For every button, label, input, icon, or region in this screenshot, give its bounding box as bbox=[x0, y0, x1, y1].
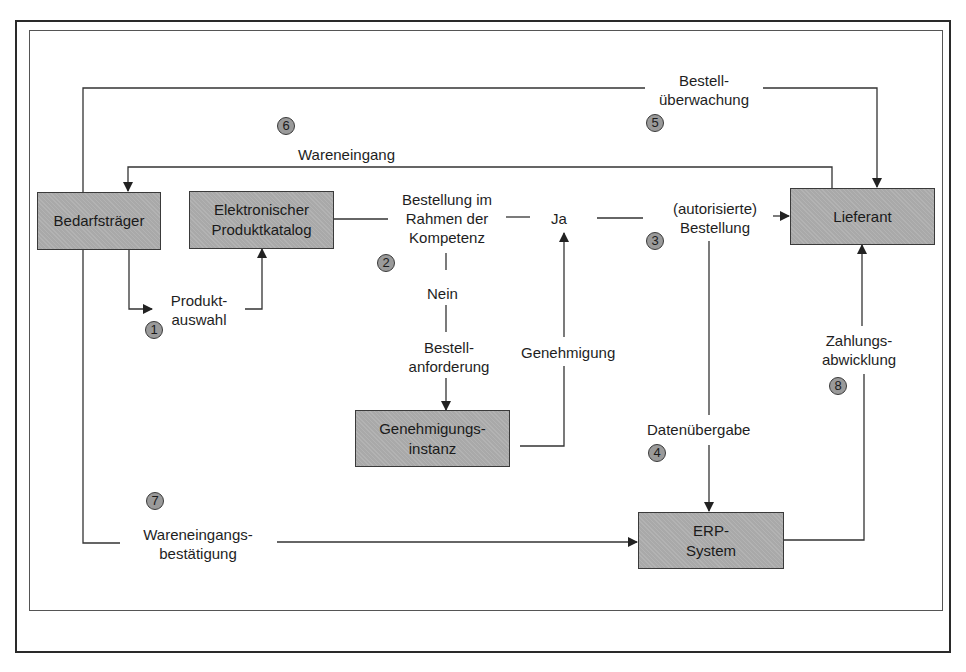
node-lieferant-label: Lieferant bbox=[833, 207, 891, 227]
label-line: Produkt- bbox=[161, 291, 237, 310]
label-line: (autorisierte) bbox=[665, 199, 765, 218]
label-produktauswahl: Produkt- auswahl bbox=[158, 291, 240, 329]
label-line: abwicklung bbox=[811, 350, 907, 369]
label-line: Kompetenz bbox=[391, 228, 503, 247]
label-line: Bestell- bbox=[648, 71, 760, 90]
label-line: Bestellung im bbox=[391, 190, 503, 209]
node-bedarfstraeger: Bedarfsträger bbox=[37, 192, 161, 250]
label-nein: Nein bbox=[424, 284, 461, 303]
node-genehmigungsinstanz: Genehmigungs- instanz bbox=[355, 410, 510, 467]
step-4-badge: 4 bbox=[648, 444, 666, 462]
label-line: Zahlungs- bbox=[811, 331, 907, 350]
node-erp-system-label: ERP- System bbox=[681, 521, 741, 561]
label-zahlungsabwicklung: Zahlungs- abwicklung bbox=[808, 331, 910, 369]
label-line: Rahmen der bbox=[391, 209, 503, 228]
label-line: Bestellung bbox=[665, 218, 765, 237]
node-lieferant: Lieferant bbox=[790, 188, 935, 245]
label-line: bestätigung bbox=[129, 544, 267, 563]
label-ja: Ja bbox=[548, 209, 570, 228]
node-produktkatalog-label: Elektronischer Produktkatalog bbox=[197, 200, 327, 240]
label-genehmigung: Genehmigung bbox=[518, 343, 618, 362]
label-wareneingangsbestaetigung: Wareneingangs- bestätigung bbox=[126, 525, 270, 563]
label-autorisierte-bestellung: (autorisierte) Bestellung bbox=[662, 199, 768, 237]
label-bestellueberwachung: Bestell- überwachung bbox=[645, 71, 763, 109]
step-1-badge: 1 bbox=[145, 321, 163, 339]
node-produktkatalog: Elektronischer Produktkatalog bbox=[189, 191, 334, 249]
step-2-badge: 2 bbox=[377, 254, 395, 272]
label-line: anforderung bbox=[402, 357, 496, 376]
label-line: Wareneingangs- bbox=[129, 525, 267, 544]
step-5-badge: 5 bbox=[646, 114, 664, 132]
step-6-badge: 6 bbox=[277, 117, 295, 135]
label-bestellanforderung: Bestell- anforderung bbox=[399, 338, 499, 376]
step-3-badge: 3 bbox=[646, 232, 664, 250]
label-line: Bestell- bbox=[402, 338, 496, 357]
step-7-badge: 7 bbox=[146, 492, 164, 510]
node-bedarfstraeger-label: Bedarfsträger bbox=[54, 211, 145, 231]
label-datenuebergabe: Datenübergabe bbox=[644, 420, 753, 439]
node-erp-system: ERP- System bbox=[638, 512, 784, 569]
label-line: überwachung bbox=[648, 90, 760, 109]
label-line: auswahl bbox=[161, 310, 237, 329]
label-wareneingang: Wareneingang bbox=[295, 145, 398, 164]
step-8-badge: 8 bbox=[829, 377, 847, 395]
node-genehmigungsinstanz-label: Genehmigungs- instanz bbox=[373, 419, 493, 459]
label-bestellung-kompetenz: Bestellung im Rahmen der Kompetenz bbox=[388, 190, 506, 247]
